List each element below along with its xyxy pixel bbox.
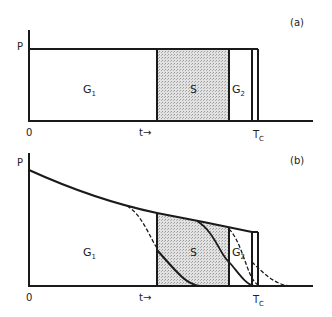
phase-label-g2: G2	[232, 246, 245, 261]
origin-label: 0	[26, 127, 32, 138]
panel-a: (a) P 0 t→ TC G1 S G2	[17, 17, 313, 143]
phase-label-s: S	[190, 83, 197, 96]
y-axis-label: P	[17, 41, 23, 52]
age-distribution-curve	[29, 170, 258, 232]
origin-label: 0	[26, 292, 32, 303]
phase-label-g2: G2	[232, 83, 245, 98]
y-axis-label: P	[17, 157, 23, 168]
phase-label-g1: G1	[83, 83, 96, 98]
panel-tag: (a)	[290, 17, 304, 28]
tc-label: TC	[252, 129, 264, 143]
panel-b: (b) P 0 t→ TC G1 S G2	[17, 153, 313, 308]
panel-tag: (b)	[290, 155, 304, 166]
phase-label-g1: G1	[83, 246, 96, 261]
phase-label-s: S	[190, 246, 197, 259]
time-label: t→	[139, 292, 151, 303]
time-label: t→	[139, 127, 151, 138]
cell-cycle-diagram: (a) P 0 t→ TC G1 S G2 (b) P 0 t→ TC	[0, 0, 332, 317]
tc-label: TC	[252, 294, 264, 308]
